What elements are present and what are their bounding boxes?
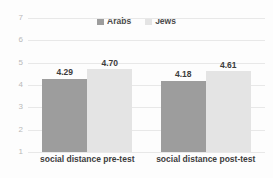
bar-groups: 4.29 4.70 4.18 4.61 [28,18,265,152]
bar-value-jews-pre: 4.70 [87,59,132,68]
category-label-post-test: social distance post-test [147,155,266,175]
bar-wrap-arabs-post: 4.18 [161,18,206,152]
gridline: 1 [28,152,265,153]
bar-value-arabs-pre: 4.29 [42,68,87,77]
bar-jews-post [206,71,251,152]
plot-area: 1234567 4.29 4.70 4.18 [28,18,265,152]
y-axis-tick-label: 1 [19,148,23,156]
bar-wrap-arabs-pre: 4.29 [42,18,87,152]
y-axis-tick-label: 5 [19,59,23,67]
bar-wrap-jews-post: 4.61 [206,18,251,152]
y-axis-tick-label: 3 [19,103,23,111]
y-axis-tick-label: 6 [19,36,23,44]
bar-value-arabs-post: 4.18 [161,70,206,79]
category-axis: social distance pre-test social distance… [28,155,265,175]
bar-group-post-test: 4.18 4.61 [147,18,266,152]
y-axis-tick-label: 7 [19,14,23,22]
y-axis-tick-label: 4 [19,81,23,89]
bar-arabs-pre [42,79,87,152]
bar-group-pre-test: 4.29 4.70 [28,18,147,152]
bar-wrap-jews-pre: 4.70 [87,18,132,152]
bar-jews-pre [87,69,132,152]
bar-arabs-post [161,81,206,152]
category-label-pre-test: social distance pre-test [28,155,147,175]
bar-chart: Arabs Jews 1234567 4.29 4.70 [0,0,273,178]
y-axis-tick-label: 2 [19,126,23,134]
bar-value-jews-post: 4.61 [206,61,251,70]
